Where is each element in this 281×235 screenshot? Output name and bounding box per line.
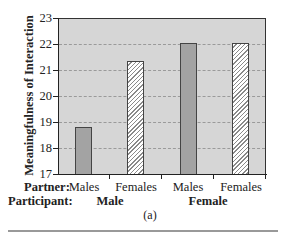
x-label-females-1: Females (106, 180, 166, 195)
x-label-females-2: Females (211, 180, 271, 195)
y-axis-line (58, 18, 59, 175)
bar-female-participant-males-partner (180, 43, 197, 175)
y-tick-label-20: 20 (26, 90, 52, 102)
divider-rule (8, 230, 278, 232)
y-tick-label-23: 23 (26, 12, 52, 24)
y-tick-label-17: 17 (26, 168, 52, 180)
x-tick (109, 174, 110, 179)
figure-caption: (a) (130, 208, 170, 223)
x-tick (213, 174, 214, 179)
bar-male-participant-females-partner (127, 61, 144, 175)
y-tick-label-18: 18 (26, 142, 52, 154)
x-label-males-2: Males (158, 180, 218, 195)
x-label-males-1: Males (54, 180, 114, 195)
group-label-female: Female (168, 194, 248, 209)
bar-male-participant-males-partner (75, 127, 92, 175)
x-tick (161, 174, 162, 179)
y-tick-label-21: 21 (26, 64, 52, 76)
x-axis-line (58, 174, 267, 175)
bar-female-participant-females-partner (232, 43, 249, 175)
participant-row-label: Participant: (8, 194, 73, 209)
y-tick-label-22: 22 (26, 38, 52, 50)
x-tick (265, 174, 266, 179)
group-label-male: Male (70, 194, 150, 209)
y-tick-label-19: 19 (26, 116, 52, 128)
